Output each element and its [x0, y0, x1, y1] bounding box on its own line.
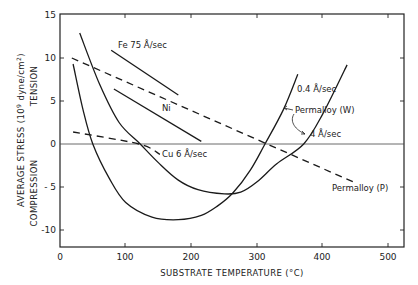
label-permalloy-p: Permalloy (P) [332, 183, 388, 193]
series-line-fe-75-sec [111, 50, 178, 95]
y-axis-title: AVERAGE STRESS (109 dyne/cm2) [15, 53, 26, 207]
x-tick-0: 0 [57, 252, 63, 262]
x-tick-400: 400 [313, 252, 330, 262]
stress-vs-temperature-chart: 15 10 5 0 - 5 -10 0 100 200 300 400 500 … [0, 0, 418, 285]
x-tick-labels: 0 100 200 300 400 500 [57, 252, 397, 262]
y-tick-minus10: -10 [41, 225, 56, 235]
series-layer [72, 33, 355, 220]
x-axis-title: SUBSTRATE TEMPERATURE (°C) [160, 268, 304, 278]
y-title-main: AVERAGE STRESS (10 [16, 108, 26, 207]
y-axis-compression-label: COMPRESSION [29, 159, 39, 226]
y-tick-15: 15 [45, 10, 56, 20]
series-line-permalloy-p [72, 58, 355, 183]
label-fe: Fe 75 Å/sec [118, 39, 167, 50]
x-tick-100: 100 [116, 252, 133, 262]
label-permalloy-w: Permalloy (W) [295, 105, 355, 115]
label-ni: Ni [162, 103, 171, 113]
x-tick-200: 200 [182, 252, 199, 262]
series-line-permalloy-w-0-4-sec [73, 64, 298, 220]
y-tick-10: 10 [45, 53, 57, 63]
y-tick-labels: 15 10 5 0 - 5 -10 [41, 10, 56, 235]
y-tick-minus5: - 5 [44, 182, 56, 192]
y-tick-5: 5 [50, 96, 56, 106]
label-w-fast: 4 Å/sec [310, 128, 341, 139]
y-axis-tension-label: TENSION [29, 66, 39, 108]
svg-text:AVERAGE STRESS (109 dyne/cm2): AVERAGE STRESS (109 dyne/cm2) [15, 53, 26, 207]
x-tick-300: 300 [248, 252, 265, 262]
label-cu: Cu 6 Å/sec [162, 148, 207, 159]
y-title-unit: dyne/cm [16, 61, 26, 104]
y-title-close: ) [16, 53, 26, 57]
plot-frame [60, 14, 404, 247]
x-tick-500: 500 [379, 252, 396, 262]
y-tick-0: 0 [50, 139, 56, 149]
series-line-ni [114, 89, 201, 141]
label-w-slow: 0.4 Å/sec [297, 83, 337, 94]
